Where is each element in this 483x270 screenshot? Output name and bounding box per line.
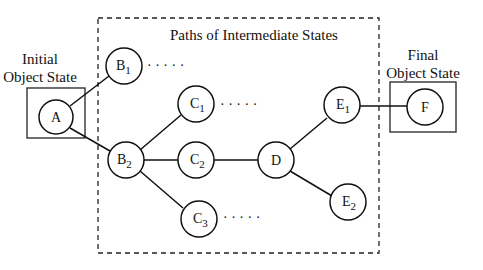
- paths-label: Paths of Intermediate States: [170, 26, 370, 44]
- svg-text:D: D: [271, 153, 281, 168]
- initial-state-label: Initial Object State: [0, 50, 80, 86]
- svg-text:A: A: [51, 110, 62, 125]
- initial-label-line2: Object State: [0, 68, 80, 86]
- final-label-line1: Final: [382, 46, 464, 64]
- state-paths-diagram: A B1 B2 C1 C2 C3 D E1 E2 F · · · · · · ·…: [0, 0, 483, 270]
- ellipsis-b1: · · · · ·: [147, 58, 184, 73]
- final-state-label: Final Object State: [382, 46, 464, 82]
- initial-label-line1: Initial: [0, 50, 80, 68]
- ellipsis-c3: · · · · ·: [223, 210, 260, 225]
- svg-text:F: F: [421, 100, 429, 115]
- ellipsis-c1: · · · · ·: [220, 97, 257, 112]
- final-label-line2: Object State: [382, 64, 464, 82]
